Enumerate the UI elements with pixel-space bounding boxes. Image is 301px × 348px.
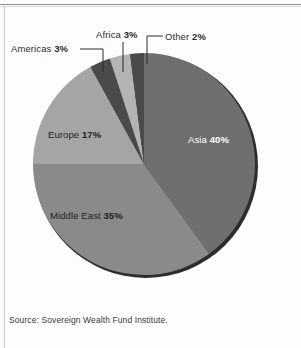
slice-label-americas-name: Americas: [11, 43, 51, 54]
slice-label-asia: Asia 40%: [188, 134, 229, 145]
slice-label-asia-value: 40%: [210, 134, 229, 145]
slice-label-europe-value: 17%: [82, 129, 101, 140]
pie-chart-figure: Americas 3% Africa 3% Other 2% Europe 17…: [0, 0, 301, 348]
slice-label-europe-name: Europe: [48, 129, 79, 140]
slice-label-other-name: Other: [165, 31, 189, 42]
slice-label-asia-name: Asia: [188, 134, 207, 145]
slice-label-americas: Americas 3%: [11, 43, 68, 54]
slice-label-other-value: 2%: [192, 31, 206, 42]
slice-label-americas-value: 3%: [54, 43, 68, 54]
chart-plot-area: Americas 3% Africa 3% Other 2% Europe 17…: [0, 0, 301, 348]
slice-label-middle-east-name: Middle East: [50, 210, 101, 221]
slice-label-europe: Europe 17%: [48, 129, 101, 140]
slice-label-africa-value: 3%: [124, 29, 138, 40]
slice-label-other: Other 2%: [165, 31, 206, 42]
pie-slices-group: [33, 53, 255, 275]
slice-label-africa-name: Africa: [96, 29, 121, 40]
slice-label-middle-east-value: 35%: [103, 210, 122, 221]
slice-label-africa: Africa 3%: [96, 29, 138, 40]
slice-label-middle-east: Middle East 35%: [50, 210, 123, 221]
source-note: Source: Sovereign Wealth Fund Institute.: [9, 315, 168, 325]
